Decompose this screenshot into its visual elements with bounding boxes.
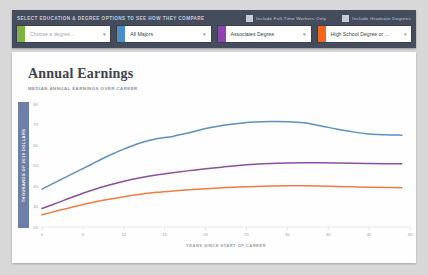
select-value: All Majors — [125, 26, 198, 42]
chart-card: Annual Earnings MEDIAN ANNUAL EARNINGS O… — [12, 52, 416, 263]
select-value: Associates Degree — [226, 26, 299, 42]
control-bar-heading: SELECT EDUCATION & DEGREE OPTIONS TO SEE… — [17, 14, 205, 23]
x-tick-label: 15 — [162, 232, 167, 237]
select-value: High School Degree or ... — [326, 26, 399, 42]
chevron-down-icon: ▾ — [399, 26, 411, 42]
checkbox-label: Include Graduate Degrees — [352, 14, 411, 23]
checkbox-group: Include Full-Time Workers Only Include G… — [246, 14, 411, 23]
app-root: SELECT EDUCATION & DEGREE OPTIONS TO SEE… — [0, 0, 428, 275]
series-line-1 — [42, 121, 402, 189]
select-degree-1[interactable]: Choose a degree... ▾ — [17, 26, 110, 42]
x-tick-label: 30 — [285, 232, 290, 237]
x-tick-label: 20 — [203, 232, 208, 237]
chevron-down-icon: ▾ — [199, 26, 211, 42]
y-tick-label: 60 — [33, 143, 38, 148]
x-tick-label: 40 — [367, 232, 372, 237]
color-swatch — [17, 26, 25, 42]
checkbox-icon — [246, 15, 253, 22]
select-degree-4[interactable]: High School Degree or ... ▾ — [318, 26, 411, 42]
chevron-down-icon: ▾ — [299, 26, 311, 42]
select-value: Choose a degree... — [25, 26, 98, 42]
y-tick-label: 20 — [33, 225, 38, 230]
x-tick-label: 0 — [41, 232, 44, 237]
line-chart-svg: 20304050607080051015202530354045YEARS SI… — [12, 98, 416, 263]
chart-subtitle: MEDIAN ANNUAL EARNINGS OVER CAREER — [28, 86, 138, 91]
y-tick-label: 50 — [33, 163, 38, 168]
y-tick-label: 30 — [33, 204, 38, 209]
y-tick-label: 40 — [33, 184, 38, 189]
plot-area: THOUSANDS OF 2019 DOLLARS 20304050607080… — [12, 98, 416, 263]
checkbox-icon — [342, 15, 349, 22]
color-swatch — [318, 26, 326, 42]
checkbox-full-time-workers[interactable]: Include Full-Time Workers Only — [246, 14, 326, 23]
control-bar: SELECT EDUCATION & DEGREE OPTIONS TO SEE… — [12, 10, 416, 48]
control-bar-header: SELECT EDUCATION & DEGREE OPTIONS TO SEE… — [17, 14, 411, 23]
x-tick-label: 45 — [408, 232, 413, 237]
chevron-down-icon: ▾ — [98, 26, 110, 42]
select-degree-2[interactable]: All Majors ▾ — [117, 26, 210, 42]
y-tick-label: 80 — [33, 102, 38, 107]
checkbox-graduate-degrees[interactable]: Include Graduate Degrees — [342, 14, 411, 23]
color-swatch — [218, 26, 226, 42]
checkbox-label: Include Full-Time Workers Only — [256, 14, 326, 23]
x-axis-title: YEARS SINCE START OF CAREER — [186, 243, 266, 248]
x-tick-label: 5 — [82, 232, 85, 237]
color-swatch — [117, 26, 125, 42]
select-group: Choose a degree... ▾ All Majors ▾ Associ… — [17, 26, 411, 42]
y-tick-label: 70 — [33, 122, 38, 127]
series-line-3 — [42, 186, 402, 215]
select-degree-3[interactable]: Associates Degree ▾ — [218, 26, 311, 42]
x-tick-label: 10 — [121, 232, 126, 237]
x-tick-label: 35 — [326, 232, 331, 237]
x-tick-label: 25 — [244, 232, 249, 237]
page-title: Annual Earnings — [28, 66, 133, 82]
